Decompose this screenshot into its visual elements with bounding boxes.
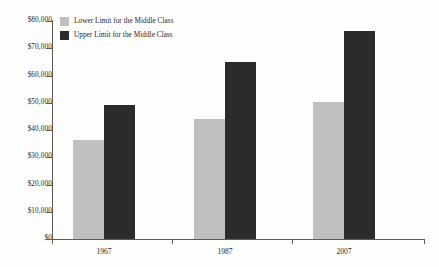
bar-lower-1987: [194, 119, 225, 239]
bar-lower-2007: [313, 102, 344, 239]
legend-item-lower-limit: Lower Limit for the Middle Class: [60, 16, 174, 27]
y-axis-tick: [46, 130, 52, 131]
bar-upper-1987: [225, 62, 256, 239]
bar-lower-1967: [73, 140, 104, 239]
legend-label-lower: Lower Limit for the Middle Class: [74, 17, 174, 26]
x-axis-label-2007: 2007: [336, 248, 351, 256]
y-axis-tick: [46, 103, 52, 104]
y-axis-tick: [46, 48, 52, 49]
x-axis-tick: [52, 239, 53, 244]
x-axis-line: [52, 239, 424, 240]
bar-chart: $0$10,000$20,000$30,000$40,000$50,000$60…: [0, 0, 439, 267]
bar-upper-1967: [104, 105, 135, 239]
x-axis-tick: [424, 239, 425, 244]
y-axis-tick: [46, 185, 52, 186]
plot-area: [52, 21, 424, 239]
y-axis-tick: [46, 21, 52, 22]
legend-label-upper: Upper Limit for the Middle Class: [74, 31, 173, 40]
y-axis: $0$10,000$20,000$30,000$40,000$50,000$60…: [0, 0, 52, 267]
legend-swatch-icon-upper: [60, 31, 69, 40]
legend-swatch-icon-lower: [60, 17, 69, 26]
y-axis-tick: [46, 76, 52, 77]
x-axis-label-1967: 1967: [96, 248, 111, 256]
legend-item-upper-limit: Upper Limit for the Middle Class: [60, 30, 174, 41]
bar-upper-2007: [344, 31, 375, 239]
x-axis-tick: [172, 239, 173, 244]
x-axis-tick: [292, 239, 293, 244]
y-axis-tick: [46, 212, 52, 213]
x-axis-label-1987: 1987: [217, 248, 232, 256]
y-axis-tick: [46, 157, 52, 158]
chart-legend: Lower Limit for the Middle Class Upper L…: [60, 16, 174, 44]
